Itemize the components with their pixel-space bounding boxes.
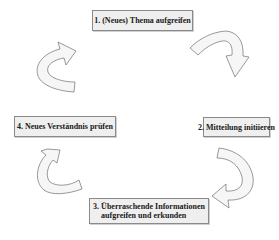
curved-arrow-down-left-icon <box>212 148 253 208</box>
step-2-box: 2. Mitteilung initiieren <box>203 117 270 137</box>
step-4-box: 4. Neues Verständnis prüfen <box>14 116 116 137</box>
step-3-label-line1: 3. Überraschende Informationen <box>93 202 205 211</box>
curved-arrow-down-right-icon <box>190 31 249 77</box>
step-4-label: 4. Neues Verständnis prüfen <box>17 122 113 131</box>
curved-arrow-up-right-icon <box>37 42 76 92</box>
step-3-label-line2: aufgreifen und erkunden <box>93 211 186 220</box>
curved-arrow-up-left-icon <box>37 149 82 194</box>
step-1-label: 1. (Neues) Thema aufgreifen <box>94 16 191 25</box>
step-2-label: 2. Mitteilung initiieren <box>198 123 275 132</box>
step-1-box: 1. (Neues) Thema aufgreifen <box>92 10 193 31</box>
step-3-box: 3. Überraschende Informationen aufgreife… <box>89 198 209 224</box>
